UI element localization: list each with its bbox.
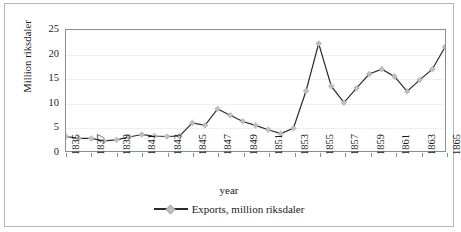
x-axis-tick-mark [193, 153, 194, 157]
x-tick-label: 1865 [451, 115, 461, 155]
x-axis-tick-mark [269, 153, 270, 157]
y-tick-label: 10 [33, 98, 59, 108]
chart-frame: Million riksdaler 0510152025 18351837183… [4, 3, 454, 227]
data-point-marker [379, 66, 385, 72]
x-tick-label: 1849 [248, 115, 259, 155]
data-point-marker [265, 127, 271, 133]
x-tick-label: 1857 [349, 115, 360, 155]
data-point-marker [88, 136, 94, 142]
chart-legend: Exports, million riksdaler [5, 203, 453, 215]
x-axis-tick-mark [168, 153, 169, 157]
x-tick-label: 1837 [95, 115, 106, 155]
data-point-marker [139, 132, 145, 138]
x-axis-tick-mark [371, 153, 372, 157]
x-axis-tick-mark [447, 153, 448, 157]
x-axis-tick-mark [142, 153, 143, 157]
x-tick-label: 1853 [299, 115, 310, 155]
data-point-marker [316, 41, 322, 47]
x-tick-label: 1863 [426, 115, 437, 155]
data-point-marker [240, 119, 246, 125]
x-axis-tick-mark [117, 153, 118, 157]
x-axis-tick-mark [244, 153, 245, 157]
y-tick-label: 25 [33, 24, 59, 34]
x-axis-tick-mark [422, 153, 423, 157]
x-axis-tick-mark [218, 153, 219, 157]
y-tick-label: 15 [33, 73, 59, 83]
data-point-marker [66, 134, 69, 140]
y-axis-title: Million riksdaler [22, 0, 33, 117]
y-tick-label: 20 [33, 49, 59, 59]
data-point-marker [303, 88, 309, 94]
x-tick-label: 1841 [146, 115, 157, 155]
data-point-marker [291, 125, 297, 131]
data-point-marker [164, 134, 170, 140]
x-axis-tick-mark [396, 153, 397, 157]
x-axis-tick-mark [345, 153, 346, 157]
x-tick-label: 1835 [70, 115, 81, 155]
y-tick-label: 0 [33, 147, 59, 157]
x-tick-label: 1859 [375, 115, 386, 155]
x-tick-label: 1861 [400, 115, 411, 155]
x-tick-label: 1843 [172, 115, 183, 155]
x-tick-label: 1847 [222, 115, 233, 155]
legend-marker-icon [154, 204, 188, 214]
y-tick-label: 5 [33, 122, 59, 132]
data-point-marker [114, 137, 120, 143]
x-axis-tick-mark [320, 153, 321, 157]
x-axis-title: year [5, 184, 453, 196]
x-axis-tick-mark [295, 153, 296, 157]
x-axis-tick-mark [66, 153, 67, 157]
x-tick-label: 1855 [324, 115, 335, 155]
x-axis-tick-mark [91, 153, 92, 157]
x-tick-label: 1839 [121, 115, 132, 155]
x-tick-label: 1845 [197, 115, 208, 155]
legend-label: Exports, million riksdaler [192, 203, 305, 215]
x-tick-label: 1851 [273, 115, 284, 155]
